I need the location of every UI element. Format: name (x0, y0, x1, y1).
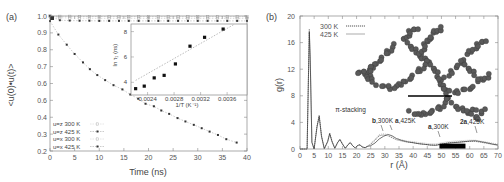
atom (447, 88, 452, 93)
x-tick-label: 70 (494, 152, 502, 159)
annotation-pi-stacking: π-stacking (335, 106, 366, 114)
atom (486, 71, 491, 76)
x-tick-label: 50 (438, 152, 446, 159)
y-tick-label: 1.0 (37, 13, 47, 20)
inset-y-tick-label: 8 (124, 29, 128, 35)
atom (422, 44, 427, 49)
data-point (89, 68, 91, 70)
x-tick-label: 60 (466, 152, 474, 159)
data-point (98, 20, 100, 22)
inset-y-label: ln τ₁ (ns) (112, 44, 118, 67)
data-point (57, 34, 59, 36)
atom (392, 86, 397, 91)
inset-point (143, 85, 146, 88)
data-point (187, 20, 189, 22)
y-tick-label: 16 (287, 39, 295, 46)
atom (475, 77, 480, 82)
annotation-arrow (475, 126, 477, 133)
x-tick-label: 0 (298, 152, 302, 159)
atom (384, 51, 389, 56)
panel-a-chart: (a) 0.20.30.40.60.60.70.80.91.0 05101520… (6, 12, 251, 177)
inset-point (134, 87, 137, 90)
atom (455, 91, 460, 96)
data-point (128, 20, 130, 22)
x-tick-label: 40 (409, 152, 417, 159)
atom (458, 58, 463, 63)
data-point (108, 20, 110, 22)
data-point (113, 84, 115, 86)
annotation-label: b,300K (372, 117, 394, 124)
data-point (59, 19, 61, 21)
panel-a-x-label: Time (ns) (129, 167, 167, 177)
x-tick-label: 10 (95, 154, 103, 161)
x-tick-label: 5 (73, 154, 77, 161)
atom (441, 86, 446, 91)
data-point (216, 20, 218, 22)
atom (483, 39, 488, 44)
atom (462, 87, 467, 92)
atom (407, 31, 412, 36)
atom (429, 109, 434, 114)
panel-a-label: (a) (6, 12, 17, 22)
data-point (193, 124, 195, 126)
panel-a-y-label: <u(0)•u(t)> (6, 63, 16, 106)
data-point (236, 142, 238, 144)
atom (373, 83, 378, 88)
x-tick-label: 45 (423, 152, 431, 159)
atom (464, 108, 469, 113)
x-tick-label: 35 (395, 152, 403, 159)
y-tick-label: 0.9 (37, 29, 47, 36)
atom (449, 100, 454, 105)
atom (475, 44, 480, 49)
data-point (177, 20, 179, 22)
panel-a-legend: u=z 300 Ku=z 425 Ku=x 300 Ku=x 425 K (53, 121, 105, 150)
y-tick-label: 0.7 (37, 63, 47, 70)
inset-x-tick-label: 0.0036 (218, 96, 237, 102)
y-tick-label: 0.8 (37, 46, 47, 53)
atom (449, 71, 454, 76)
data-point (88, 20, 90, 22)
series-line-band (371, 134, 498, 144)
data-point (74, 53, 76, 55)
data-point (225, 138, 227, 140)
data-point (168, 113, 170, 115)
panel-b-chart: (b) 048121620 05101520253035404550556065… (266, 12, 502, 170)
x-tick-label: 20 (353, 152, 361, 159)
annotation-label: a,425K (395, 117, 416, 124)
data-cluster (50, 16, 54, 20)
atom (472, 73, 477, 78)
atom (386, 83, 391, 88)
inset-y-tick-label: 4 (124, 79, 128, 85)
x-tick-label: 10 (324, 152, 332, 159)
x-tick-label: 25 (367, 152, 375, 159)
data-point (121, 88, 123, 90)
inset-point (188, 45, 191, 48)
data-point (217, 134, 219, 136)
atom (441, 75, 446, 80)
atom (428, 35, 433, 40)
x-tick-label: 30 (381, 152, 389, 159)
panel-b-legend: 300 K425 K (320, 23, 365, 38)
atom (415, 27, 420, 32)
y-tick-label: 20 (287, 13, 295, 20)
atom (435, 106, 440, 111)
x-tick-label: 0 (48, 154, 52, 161)
data-point (82, 61, 84, 63)
y-tick-label: 0.2 (37, 148, 47, 155)
data-point (79, 20, 81, 22)
molecule-image (355, 24, 491, 122)
legend-label: u=x 300 K (53, 136, 80, 142)
inset-x-label: 1/T (K⁻¹) (175, 102, 198, 108)
inset-y-tick-label: 6 (124, 54, 128, 60)
y-tick-label: 8 (291, 92, 295, 99)
inset-point (222, 27, 225, 30)
data-point (118, 20, 120, 22)
inset-point (203, 36, 206, 39)
data-point (236, 20, 238, 22)
inset-point (163, 74, 166, 77)
data-point (160, 110, 162, 112)
data-point (69, 20, 71, 22)
y-tick-label: 12 (287, 66, 295, 73)
y-tick-label: 0 (291, 146, 295, 153)
legend-label: 300 K (320, 23, 339, 30)
